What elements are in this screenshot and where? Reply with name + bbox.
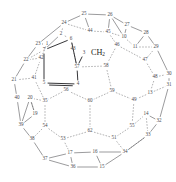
atom-number-label: 49	[132, 96, 137, 102]
atom-number-label: 42	[39, 54, 44, 60]
bond-dashed	[147, 64, 153, 74]
bond-dashed	[49, 92, 63, 99]
atom-number-label: 45	[106, 28, 111, 34]
bond-solid	[22, 102, 28, 121]
bond-solid	[97, 156, 100, 163]
atom-number-label: 1	[46, 40, 49, 46]
bond-solid	[74, 152, 91, 153]
bond-solid	[151, 124, 157, 131]
atom-number-label: 22	[24, 56, 29, 62]
atom-number-label: 14	[144, 110, 149, 116]
bond-dashed	[94, 93, 108, 100]
atom-number-label: 4	[77, 80, 80, 86]
atom-number-label: 19	[33, 110, 38, 116]
atom-number-label: 13	[148, 89, 153, 95]
node-label-layer: 2526242724445102823614611297433224247575…	[12, 10, 172, 169]
atom-number-label: 59	[110, 87, 115, 93]
atom-number-label: 25	[82, 10, 87, 16]
bond-dashed	[151, 81, 153, 89]
atom-number-label: 27	[125, 21, 130, 27]
bond-solid	[150, 116, 156, 119]
atom-number-label: 15	[100, 163, 105, 169]
atom-number-label: 35	[43, 97, 48, 103]
bond-dashed	[65, 36, 67, 37]
bond-dashed	[48, 128, 59, 136]
atom-number-label: 36	[71, 163, 76, 169]
atom-number-label: 55	[130, 122, 135, 128]
bond-solid	[34, 143, 42, 156]
bond-solid	[114, 17, 124, 23]
ch2-group-label: CH2	[91, 48, 105, 57]
bond-dashed	[68, 24, 86, 30]
bond-solid	[24, 128, 30, 135]
bond-dashed	[67, 132, 86, 138]
atom-number-label: 20	[28, 94, 33, 100]
bond-dashed	[45, 46, 46, 48]
bond-dashed	[148, 50, 154, 57]
atom-number-label: 24	[62, 19, 67, 25]
atom-number-label: 2	[60, 30, 63, 36]
bond-dashed	[94, 31, 104, 32]
bond-dashed	[138, 95, 146, 99]
atom-number-label: 34	[123, 148, 128, 154]
atom-number-label: 54	[43, 122, 48, 128]
bond-solid	[138, 36, 144, 43]
atom-number-label: 62	[88, 127, 93, 133]
bond-solid	[128, 137, 144, 149]
bond-solid	[18, 102, 21, 121]
atom-number-label: 38	[30, 135, 35, 141]
bond-dashed	[34, 99, 41, 100]
bond-dashed	[135, 117, 143, 124]
atom-number-label: 16	[93, 148, 98, 154]
atom-number-label: 30	[167, 70, 172, 76]
bond-solid	[108, 19, 109, 28]
bond-dashed	[94, 132, 110, 137]
atom-number-label: 17	[68, 149, 73, 155]
bond-solid	[41, 26, 60, 42]
double-bond-inner-line	[49, 85, 73, 86]
atom-number-label: 40	[15, 94, 20, 100]
bond-solid	[15, 84, 17, 94]
bond-solid	[16, 64, 24, 77]
atom-number-label: 58	[104, 62, 109, 68]
bond-dashed	[117, 141, 123, 148]
bond-solid	[68, 16, 80, 22]
atom-number-label: 46	[115, 41, 120, 47]
bond-solid	[24, 117, 31, 123]
bond-solid	[88, 14, 106, 15]
bond-dashed	[159, 75, 165, 76]
bond-dashed	[121, 47, 142, 58]
bond-dashed	[116, 93, 130, 99]
bond-dashed	[70, 92, 86, 100]
bond-dashed	[108, 49, 115, 63]
bond-solid	[31, 102, 33, 110]
atom-number-label: 44	[88, 27, 93, 33]
atom-number-label: 6	[70, 35, 73, 41]
atom-number-label: 26	[108, 11, 113, 17]
atom-number-label: 48	[153, 73, 158, 79]
atom-number-label: 10	[122, 33, 127, 39]
bond-solid	[85, 18, 88, 27]
atom-number-label: 51	[112, 134, 117, 140]
bond-dashed	[154, 87, 165, 92]
atom-number-label: 32	[157, 117, 162, 123]
bond-solid	[106, 154, 122, 164]
bond-ring	[47, 40, 67, 48]
atom-number-label: 60	[88, 97, 93, 103]
bond-solid	[160, 89, 168, 117]
bond-solid	[49, 154, 66, 158]
atom-number-label: 43	[71, 45, 76, 51]
atom-number-label: 39	[19, 121, 24, 127]
ch2-subscript-text: 2	[102, 51, 105, 57]
atom-number-label: 56	[64, 86, 69, 92]
ch2-base-text: CH	[91, 48, 102, 57]
fullerene-schlegel-svg: 2526242724445102823614611297433224247575…	[0, 0, 176, 182]
bond-solid	[49, 160, 69, 166]
bond-dashed	[30, 59, 37, 60]
atom-number-label: 41	[32, 74, 37, 80]
atom-number-label: 53	[61, 135, 66, 141]
atom-number-label: 33	[146, 131, 151, 137]
bond-dashed	[117, 128, 128, 135]
atom-number-label: 21	[12, 76, 17, 82]
atom-number-label: 29	[154, 43, 159, 49]
